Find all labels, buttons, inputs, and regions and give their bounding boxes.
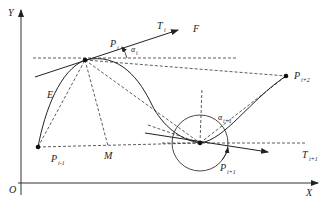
origin-label: O [9,184,16,195]
curve-E [38,59,286,147]
diagram-svg: Y X O E F T i P i α i P i-1 M α i+1 P i+… [0,0,323,206]
label-pi-1: P [50,153,57,164]
label-pi-sub: i [117,45,119,51]
label-pi+1: P [219,162,226,173]
tangent-line-ti [35,30,178,77]
label-alpha-i-sub: i [136,50,138,56]
label-ti1-sub: i+1 [309,156,318,162]
label-alpha-i1-sub: i+1 [223,118,232,124]
y-axis-label: Y [8,7,15,18]
label-pi+2-sub: i+2 [301,77,310,83]
point-pi+2 [284,74,289,79]
label-pi: P [109,38,116,49]
label-ti: T [157,20,164,31]
label-f: F [192,23,200,34]
angle-arc-alpha-i [122,47,127,58]
label-e: E [46,89,53,100]
label-m: M [103,150,113,161]
tangent-line-ti1 [145,133,268,152]
point-pi-1 [36,145,41,150]
point-pi [83,58,88,63]
label-pi+1-sub: i+1 [227,169,236,175]
x-axis-label: X [305,187,313,198]
curve-tangent-diagram: Y X O E F T i P i α i P i-1 M α i+1 P i+… [0,0,323,206]
point-pi+1 [198,141,203,146]
label-pi-1-sub: i-1 [58,160,65,166]
dashed-chords [38,60,286,147]
label-ti1: T [302,149,309,160]
label-ti-sub: i [164,27,166,33]
label-pi+2: P [293,70,300,81]
